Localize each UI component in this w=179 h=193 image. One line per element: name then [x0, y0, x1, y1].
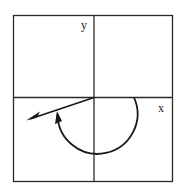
- angle-diagram: y x: [0, 0, 179, 193]
- x-axis-label: x: [158, 101, 164, 115]
- rotation-arc-arrowhead-icon: [55, 111, 62, 124]
- y-axis-label: y: [81, 18, 87, 32]
- terminal-ray: [30, 98, 94, 120]
